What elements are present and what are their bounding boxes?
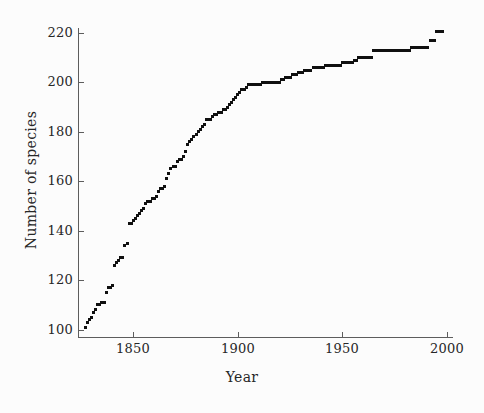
data-point [182,155,185,158]
data-point [174,165,177,168]
y-axis-title: Number of species [23,70,39,290]
data-point [165,177,168,180]
data-point [163,185,166,188]
data-point [142,207,145,210]
x-tick-label-text: 1900 [208,341,268,356]
data-point [84,326,87,329]
y-tick-label: 220 [28,25,73,41]
data-point [167,172,170,175]
plot-area [79,30,451,337]
y-tick-label: 100 [28,322,73,338]
data-point [441,30,444,33]
y-tick-label-text: 160 [33,173,73,188]
x-tick-label-text: 2000 [417,341,477,356]
data-point [203,123,206,126]
x-tick-label-text: 1850 [103,341,163,356]
y-tick-label-text: 100 [33,322,73,337]
data-point [103,301,106,304]
y-tick-label-text: 180 [33,124,73,139]
data-point [94,308,97,311]
y-tick-label-text: 200 [33,74,73,89]
chart-figure: 100120140160180200220 1850190019502000 Y… [0,0,484,413]
data-point [90,316,93,319]
data-point [105,291,108,294]
y-tick-label-text: 140 [33,223,73,238]
y-tick-label-text: 220 [33,25,73,40]
data-point [370,56,373,59]
data-point [184,150,187,153]
data-point [426,46,429,49]
data-point [155,195,158,198]
x-tick-label-text: 1950 [312,341,372,356]
data-point [126,242,129,245]
x-axis-spine [78,337,453,338]
data-point [111,284,114,287]
data-point [433,39,436,42]
y-tick-label-text: 120 [33,272,73,287]
data-point [121,256,124,259]
x-axis-title: Year [0,369,484,385]
